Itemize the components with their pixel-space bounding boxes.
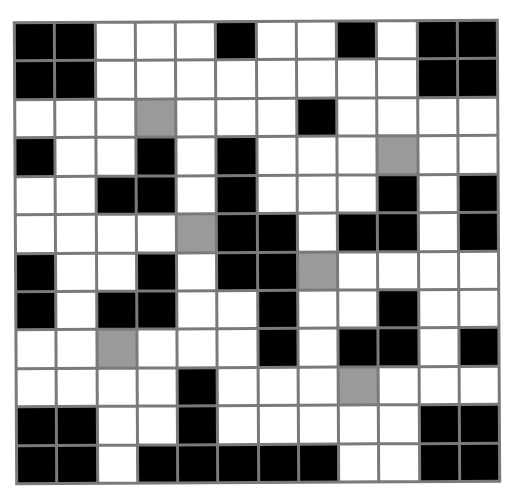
grid-cell-white[interactable] — [257, 23, 294, 59]
grid-cell-white[interactable] — [56, 101, 93, 137]
grid-cell-black[interactable] — [18, 447, 55, 483]
grid-cell-black[interactable] — [18, 408, 55, 444]
grid-cell-white[interactable] — [419, 99, 456, 135]
grid-cell-white[interactable] — [338, 138, 375, 174]
grid-cell-black[interactable] — [218, 215, 255, 251]
grid-cell-white[interactable] — [219, 369, 256, 405]
grid-cell-white[interactable] — [299, 330, 336, 366]
grid-cell-black[interactable] — [379, 291, 416, 327]
grid-cell-white[interactable] — [97, 100, 134, 136]
grid-cell-white[interactable] — [419, 176, 456, 212]
grid-cell-gray[interactable] — [299, 253, 336, 289]
grid-cell-white[interactable] — [98, 408, 135, 444]
grid-cell-white[interactable] — [219, 407, 256, 443]
grid-cell-black[interactable] — [179, 407, 216, 443]
grid-cell-white[interactable] — [57, 293, 94, 329]
grid-cell-black[interactable] — [56, 24, 93, 60]
grid-cell-white[interactable] — [419, 214, 456, 250]
grid-cell-white[interactable] — [299, 291, 336, 327]
grid-cell-white[interactable] — [97, 62, 134, 98]
grid-cell-black[interactable] — [179, 369, 216, 405]
grid-cell-gray[interactable] — [340, 368, 377, 404]
grid-cell-white[interactable] — [177, 100, 214, 136]
grid-cell-black[interactable] — [379, 176, 416, 212]
grid-cell-white[interactable] — [378, 99, 415, 135]
grid-cell-black[interactable] — [139, 446, 176, 482]
grid-cell-white[interactable] — [18, 370, 55, 406]
grid-cell-white[interactable] — [16, 101, 53, 137]
grid-cell-white[interactable] — [380, 368, 417, 404]
grid-cell-black[interactable] — [420, 406, 457, 442]
grid-cell-white[interactable] — [17, 331, 54, 367]
grid-cell-white[interactable] — [218, 292, 255, 328]
grid-cell-white[interactable] — [217, 100, 254, 136]
grid-cell-black[interactable] — [379, 214, 416, 250]
grid-cell-black[interactable] — [58, 408, 95, 444]
grid-cell-black[interactable] — [98, 293, 135, 329]
grid-cell-black[interactable] — [460, 214, 497, 250]
grid-cell-gray[interactable] — [379, 137, 416, 173]
grid-cell-gray[interactable] — [178, 215, 215, 251]
grid-cell-black[interactable] — [260, 445, 297, 481]
grid-cell-white[interactable] — [97, 216, 134, 252]
grid-cell-white[interactable] — [17, 178, 54, 214]
grid-cell-white[interactable] — [57, 254, 94, 290]
grid-cell-black[interactable] — [16, 24, 53, 60]
grid-cell-black[interactable] — [218, 254, 255, 290]
grid-cell-white[interactable] — [258, 138, 295, 174]
grid-cell-black[interactable] — [421, 445, 458, 481]
grid-cell-black[interactable] — [258, 215, 295, 251]
grid-cell-white[interactable] — [299, 368, 336, 404]
grid-cell-white[interactable] — [138, 369, 175, 405]
grid-cell-white[interactable] — [460, 291, 497, 327]
grid-cell-black[interactable] — [17, 293, 54, 329]
grid-cell-white[interactable] — [380, 445, 417, 481]
grid-cell-white[interactable] — [420, 252, 457, 288]
grid-cell-white[interactable] — [178, 177, 215, 213]
grid-cell-black[interactable] — [300, 445, 337, 481]
grid-cell-white[interactable] — [58, 331, 95, 367]
grid-cell-black[interactable] — [259, 253, 296, 289]
grid-cell-white[interactable] — [459, 137, 496, 173]
grid-cell-white[interactable] — [340, 407, 377, 443]
grid-cell-black[interactable] — [259, 330, 296, 366]
grid-cell-white[interactable] — [298, 138, 335, 174]
grid-cell-black[interactable] — [137, 139, 174, 175]
grid-cell-white[interactable] — [420, 291, 457, 327]
grid-cell-white[interactable] — [258, 61, 295, 97]
grid-cell-black[interactable] — [217, 23, 254, 59]
grid-cell-white[interactable] — [420, 368, 457, 404]
grid-cell-black[interactable] — [461, 444, 498, 480]
grid-cell-gray[interactable] — [98, 331, 135, 367]
grid-cell-black[interactable] — [17, 255, 54, 291]
grid-cell-black[interactable] — [338, 22, 375, 58]
grid-cell-white[interactable] — [298, 176, 335, 212]
grid-cell-white[interactable] — [177, 138, 214, 174]
grid-cell-black[interactable] — [138, 292, 175, 328]
grid-cell-black[interactable] — [460, 329, 497, 365]
grid-cell-white[interactable] — [258, 100, 295, 136]
grid-cell-white[interactable] — [217, 61, 254, 97]
grid-cell-white[interactable] — [57, 216, 94, 252]
grid-cell-white[interactable] — [259, 407, 296, 443]
grid-cell-white[interactable] — [338, 61, 375, 97]
grid-cell-black[interactable] — [97, 177, 134, 213]
grid-cell-black[interactable] — [16, 139, 53, 175]
grid-cell-black[interactable] — [138, 254, 175, 290]
grid-cell-white[interactable] — [219, 330, 256, 366]
grid-cell-black[interactable] — [218, 138, 255, 174]
grid-cell-black[interactable] — [218, 177, 255, 213]
grid-cell-black[interactable] — [459, 175, 496, 211]
grid-cell-white[interactable] — [17, 216, 54, 252]
grid-cell-white[interactable] — [379, 253, 416, 289]
grid-cell-white[interactable] — [58, 370, 95, 406]
grid-cell-white[interactable] — [460, 367, 497, 403]
grid-cell-white[interactable] — [339, 253, 376, 289]
grid-cell-white[interactable] — [300, 407, 337, 443]
grid-cell-white[interactable] — [298, 61, 335, 97]
grid-cell-white[interactable] — [380, 406, 417, 442]
grid-cell-white[interactable] — [177, 62, 214, 98]
grid-cell-black[interactable] — [259, 292, 296, 328]
grid-cell-white[interactable] — [138, 216, 175, 252]
grid-cell-white[interactable] — [460, 252, 497, 288]
